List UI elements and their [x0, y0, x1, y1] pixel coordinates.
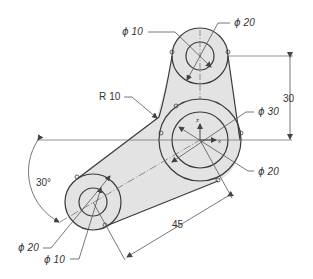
label-bottom-hole: ϕ10	[44, 254, 65, 265]
z-axis-label: z	[196, 117, 199, 123]
leader-fillet	[124, 97, 157, 118]
part-body	[64, 28, 243, 230]
label-length-45: 45	[172, 219, 184, 230]
x-axis-label: x	[218, 138, 221, 144]
label-top-hole: ϕ10	[122, 26, 143, 37]
label-bottom-boss: ϕ20	[18, 242, 39, 253]
label-fillet: R10	[99, 91, 121, 102]
label-hub-outer: ϕ30	[258, 106, 279, 117]
label-vertical-30: 30	[283, 93, 295, 104]
label-angle: 30°	[36, 177, 51, 188]
label-top-boss: ϕ20	[234, 17, 255, 28]
label-hub-inner: ϕ20	[258, 166, 279, 177]
cad-drawing: z x ϕ10 ϕ20 R10 30 ϕ30 ϕ20 30° 45 ϕ20 ϕ1…	[0, 0, 313, 279]
